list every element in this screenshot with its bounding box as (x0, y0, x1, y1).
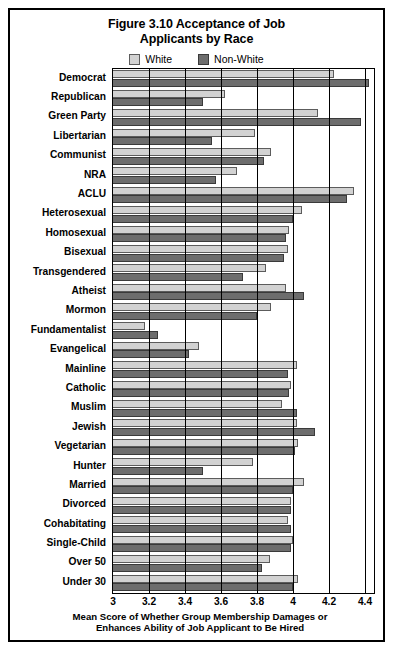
bar-group (113, 457, 374, 476)
x-tick-label: 3 (110, 596, 116, 608)
category-label: Vegetarian (10, 436, 112, 455)
bar-group (113, 244, 374, 263)
bar-group (113, 147, 374, 166)
bar-nonwhite (113, 467, 203, 475)
category-axis: DemocratRepublicanGreen PartyLibertarian… (10, 68, 112, 592)
category-label: Hunter (10, 456, 112, 475)
bar-group (113, 496, 374, 515)
bar-group (113, 379, 374, 398)
category-label: Divorced (10, 495, 112, 514)
x-axis-title-line-2: Enhances Ability of Job Applicant to Be … (50, 622, 350, 634)
bar-group (113, 263, 374, 282)
bar-nonwhite (113, 157, 264, 165)
x-axis-ticks: 33.23.43.63.844.24.4 (112, 596, 375, 610)
category-label: Fundamentalist (10, 320, 112, 339)
bar-white (113, 439, 298, 447)
bar-nonwhite (113, 583, 293, 591)
bar-group (113, 127, 374, 146)
category-label: Muslim (10, 398, 112, 417)
bar-group (113, 321, 374, 340)
category-label: Over 50 (10, 553, 112, 572)
bar-nonwhite (113, 98, 203, 106)
x-tick-label: 3.4 (178, 596, 192, 608)
category-label: Communist (10, 146, 112, 165)
legend-label-nonwhite: Non-White (214, 54, 264, 65)
category-label: Homosexual (10, 223, 112, 242)
bar-nonwhite (113, 389, 289, 397)
bar-white (113, 458, 253, 466)
chart-legend: White Non-White (10, 52, 383, 66)
bar-white (113, 167, 237, 175)
legend-label-white: White (145, 54, 172, 65)
category-label: Jewish (10, 417, 112, 436)
bar-white (113, 129, 255, 137)
bar-white (113, 70, 334, 78)
bar-nonwhite (113, 215, 293, 223)
bar-white (113, 90, 225, 98)
category-label: Heterosexual (10, 204, 112, 223)
bar-group (113, 573, 374, 592)
x-tick-label: 4.2 (322, 596, 336, 608)
bar-white (113, 575, 298, 583)
category-label: Mormon (10, 301, 112, 320)
bar-nonwhite (113, 447, 295, 455)
bar-nonwhite (113, 409, 297, 417)
x-axis-title-line-1: Mean Score of Whether Group Membership D… (50, 611, 350, 623)
category-label: Green Party (10, 107, 112, 126)
bar-nonwhite (113, 254, 284, 262)
category-label: NRA (10, 165, 112, 184)
category-label: Democrat (10, 68, 112, 87)
category-label: Bisexual (10, 243, 112, 262)
bar-group (113, 166, 374, 185)
x-tick-label: 3.6 (214, 596, 228, 608)
bar-white (113, 342, 199, 350)
bar-group (113, 340, 374, 359)
bar-group (113, 205, 374, 224)
bar-group (113, 108, 374, 127)
bar-white (113, 478, 304, 486)
category-label: ACLU (10, 184, 112, 203)
bar-nonwhite (113, 544, 291, 552)
bar-nonwhite (113, 176, 216, 184)
bar-white (113, 303, 271, 311)
category-label: Cohabitating (10, 514, 112, 533)
legend-entry-nonwhite: Non-White (198, 54, 264, 65)
bar-white (113, 497, 291, 505)
bar-nonwhite (113, 292, 304, 300)
bar-nonwhite (113, 195, 347, 203)
bar-group (113, 185, 374, 204)
bar-group (113, 399, 374, 418)
bar-white (113, 109, 318, 117)
figure-frame: Figure 3.10 Acceptance of Job Applicants… (8, 8, 385, 642)
bar-group (113, 476, 374, 495)
bar-group (113, 88, 374, 107)
category-label: Libertarian (10, 126, 112, 145)
category-label: Under 30 (10, 572, 112, 591)
category-label: Mainline (10, 359, 112, 378)
bar-group (113, 282, 374, 301)
bar-nonwhite (113, 564, 262, 572)
bar-white (113, 419, 297, 427)
bars-container (113, 69, 374, 593)
bar-group (113, 224, 374, 243)
bar-group (113, 69, 374, 88)
chart-title-line-1: Figure 3.10 Acceptance of Job (10, 17, 383, 32)
chart-title-line-2: Applicants by Race (10, 32, 383, 47)
category-label: Single-Child (10, 533, 112, 552)
bar-nonwhite (113, 350, 189, 358)
bar-nonwhite (113, 370, 288, 378)
legend-swatch-white-icon (129, 54, 140, 65)
x-tick-label: 3.8 (250, 596, 264, 608)
category-label: Transgendered (10, 262, 112, 281)
bar-white (113, 264, 266, 272)
bar-group (113, 437, 374, 456)
category-label: Atheist (10, 281, 112, 300)
bar-nonwhite (113, 486, 293, 494)
bar-nonwhite (113, 273, 243, 281)
bar-group (113, 554, 374, 573)
x-tick-label: 3.2 (142, 596, 156, 608)
category-label: Catholic (10, 378, 112, 397)
plot-area (112, 68, 375, 594)
bar-white (113, 400, 282, 408)
bar-nonwhite (113, 137, 212, 145)
